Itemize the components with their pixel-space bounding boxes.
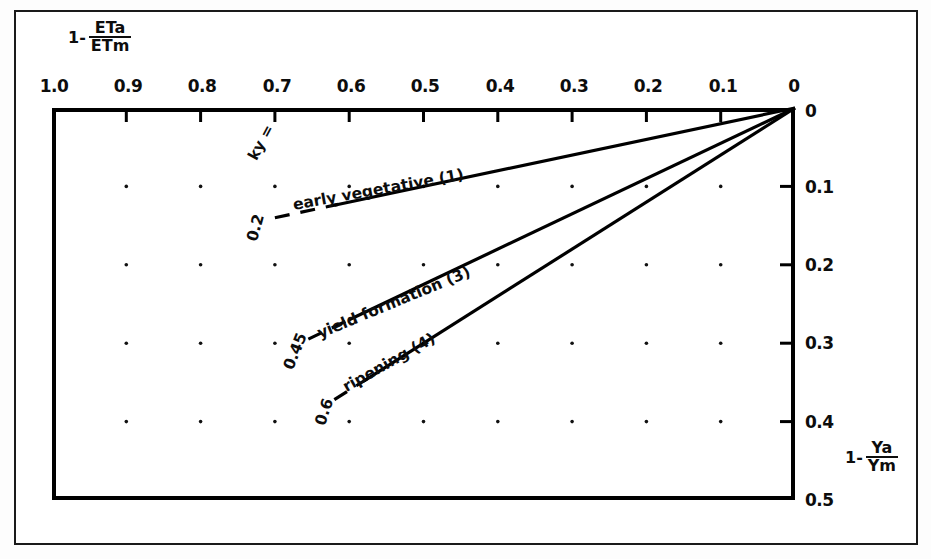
figure-canvas: 1- ETa ETm 1- Ya Ym 1.0 0.9 0.8 0.7 0.6 …: [0, 0, 931, 559]
grid-dot-markers: [125, 185, 723, 424]
x-axis-tick-marks: [126, 110, 720, 122]
y-axis-tick-marks: [780, 186, 793, 421]
